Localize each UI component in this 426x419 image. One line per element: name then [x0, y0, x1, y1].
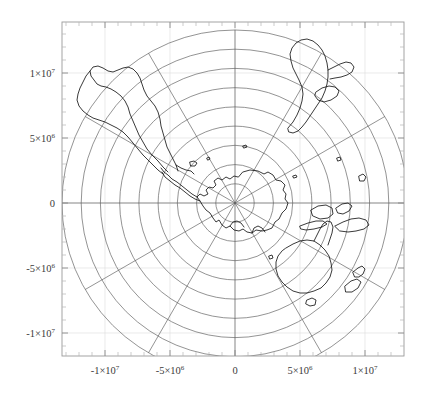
- x-tick-label-2: 0: [232, 365, 237, 376]
- y-tick-label-3: -5×106: [26, 262, 55, 274]
- x-tick-label-1: -5×106: [156, 364, 185, 376]
- chart-container: 1×107 5×106 0 -5×106 -1×107 -1×107 -5×10…: [0, 0, 426, 419]
- polar-projection-map: 1×107 5×106 0 -5×106 -1×107 -1×107 -5×10…: [0, 0, 426, 419]
- y-tick-label-4: -1×107: [26, 327, 55, 339]
- x-tick-label-0: -1×107: [91, 364, 120, 376]
- y-tick-label-2: 0: [50, 198, 55, 209]
